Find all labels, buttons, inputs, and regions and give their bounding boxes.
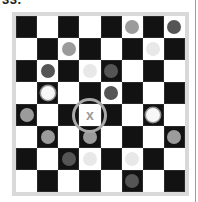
checker-piece-lightp[interactable]: [83, 152, 97, 166]
board-square-r5c1[interactable]: [37, 126, 58, 148]
checker-piece-darkp[interactable]: [167, 20, 181, 34]
checker-piece-mid[interactable]: [125, 20, 139, 34]
board-square-r3c0[interactable]: [16, 82, 37, 104]
board-square-r2c6[interactable]: [143, 60, 164, 82]
checker-piece-darkp[interactable]: [104, 86, 118, 100]
board-square-r0c5[interactable]: [122, 16, 143, 38]
board-square-r3c7[interactable]: [164, 82, 185, 104]
board-square-r7c4[interactable]: [101, 170, 122, 192]
board-square-r3c6[interactable]: [143, 82, 164, 104]
board-square-r1c3[interactable]: [79, 38, 100, 60]
board-square-r1c6[interactable]: [143, 38, 164, 60]
board-square-r2c1[interactable]: [37, 60, 58, 82]
board-square-r7c6[interactable]: [143, 170, 164, 192]
board-square-r1c4[interactable]: [101, 38, 122, 60]
board-square-r0c1[interactable]: [37, 16, 58, 38]
puzzle-title: 33.: [2, 0, 22, 7]
board-square-r6c4[interactable]: [101, 148, 122, 170]
board-square-r4c7[interactable]: [164, 104, 185, 126]
board-square-r2c5[interactable]: [122, 60, 143, 82]
board-square-r5c6[interactable]: [143, 126, 164, 148]
checker-piece-darkp[interactable]: [41, 64, 55, 78]
board-square-r3c3[interactable]: [79, 82, 100, 104]
board-square-r1c2[interactable]: [58, 38, 79, 60]
board-square-r7c5[interactable]: [122, 170, 143, 192]
board-square-r2c0[interactable]: [16, 60, 37, 82]
board-square-r4c6[interactable]: [143, 104, 164, 126]
board-square-r3c2[interactable]: [58, 82, 79, 104]
checker-piece-lightp[interactable]: [83, 64, 97, 78]
board-square-r6c0[interactable]: [16, 148, 37, 170]
board-square-r2c4[interactable]: [101, 60, 122, 82]
board-square-r7c2[interactable]: [58, 170, 79, 192]
board-square-r4c3[interactable]: x: [79, 104, 100, 126]
board-square-r4c4[interactable]: [101, 104, 122, 126]
board-square-r4c1[interactable]: [37, 104, 58, 126]
board-square-r0c3[interactable]: [79, 16, 100, 38]
board-square-r2c7[interactable]: [164, 60, 185, 82]
board-square-r5c4[interactable]: [101, 126, 122, 148]
board-square-r5c3[interactable]: [79, 126, 100, 148]
board-square-r1c0[interactable]: [16, 38, 37, 60]
board-square-r0c4[interactable]: [101, 16, 122, 38]
checker-piece-darkp[interactable]: [125, 174, 139, 188]
checker-piece-white[interactable]: [146, 108, 160, 122]
board-square-r4c0[interactable]: [16, 104, 37, 126]
board-square-r7c1[interactable]: [37, 170, 58, 192]
page-divider: [195, 0, 196, 202]
board-square-r4c2[interactable]: [58, 104, 79, 126]
board-square-r3c1[interactable]: [37, 82, 58, 104]
board-square-r0c7[interactable]: [164, 16, 185, 38]
board-square-r1c5[interactable]: [122, 38, 143, 60]
checkers-board: x: [16, 16, 185, 192]
board-square-r3c5[interactable]: [122, 82, 143, 104]
board-square-r7c3[interactable]: [79, 170, 100, 192]
board-square-r7c7[interactable]: [164, 170, 185, 192]
target-x-mark: x: [79, 104, 100, 126]
checker-piece-white[interactable]: [41, 86, 55, 100]
board-square-r5c7[interactable]: [164, 126, 185, 148]
board-square-r5c0[interactable]: [16, 126, 37, 148]
board-square-r5c2[interactable]: [58, 126, 79, 148]
board-square-r2c3[interactable]: [79, 60, 100, 82]
board-square-r6c1[interactable]: [37, 148, 58, 170]
board-square-r0c2[interactable]: [58, 16, 79, 38]
board-square-r6c3[interactable]: [79, 148, 100, 170]
checker-piece-mid[interactable]: [83, 130, 97, 144]
checker-piece-darkp[interactable]: [62, 152, 76, 166]
board-square-r7c0[interactable]: [16, 170, 37, 192]
checker-piece-mid[interactable]: [167, 130, 181, 144]
board-square-r6c5[interactable]: [122, 148, 143, 170]
board-square-r1c7[interactable]: [164, 38, 185, 60]
board-square-r6c2[interactable]: [58, 148, 79, 170]
board-square-r0c6[interactable]: [143, 16, 164, 38]
board-square-r6c7[interactable]: [164, 148, 185, 170]
checker-piece-mid[interactable]: [62, 42, 76, 56]
board-square-r0c0[interactable]: [16, 16, 37, 38]
checker-piece-mid[interactable]: [41, 130, 55, 144]
checker-piece-darkp[interactable]: [104, 64, 118, 78]
board-square-r6c6[interactable]: [143, 148, 164, 170]
board-square-r5c5[interactable]: [122, 126, 143, 148]
checker-piece-mid[interactable]: [20, 108, 34, 122]
board-square-r4c5[interactable]: [122, 104, 143, 126]
board-square-r2c2[interactable]: [58, 60, 79, 82]
board-square-r1c1[interactable]: [37, 38, 58, 60]
checker-piece-lightp[interactable]: [146, 42, 160, 56]
checker-piece-lightp[interactable]: [125, 152, 139, 166]
board-square-r3c4[interactable]: [101, 82, 122, 104]
